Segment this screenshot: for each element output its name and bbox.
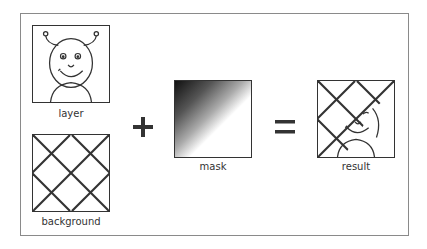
- layer-panel: [32, 25, 110, 103]
- plus-icon: [132, 116, 154, 138]
- background-label: background: [21, 216, 121, 228]
- mask-panel: [174, 80, 252, 158]
- result-label: result: [306, 161, 406, 173]
- composited-result-icon: [318, 81, 394, 157]
- background-panel: [32, 134, 110, 212]
- mask-label: mask: [163, 161, 263, 173]
- layer-label: layer: [21, 108, 121, 120]
- smiley-face-icon: [33, 26, 109, 102]
- result-panel: [317, 80, 395, 158]
- equals-icon: [274, 119, 296, 135]
- crosshatch-pattern-icon: [33, 135, 109, 211]
